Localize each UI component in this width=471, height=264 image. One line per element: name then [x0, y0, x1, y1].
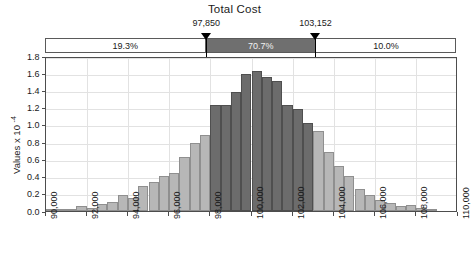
histogram-bar	[365, 195, 375, 211]
chart-title-text: Total Cost	[208, 3, 261, 15]
histogram-bar	[159, 176, 169, 210]
marker-value-left: 97,850	[192, 18, 220, 28]
y-tick-mark	[42, 91, 45, 92]
y-axis-label-exponent: -4	[10, 116, 17, 122]
chart-title: Total Cost	[0, 3, 469, 15]
x-tick-mark	[127, 212, 128, 216]
histogram-bar	[66, 209, 76, 211]
marker-value-right: 103,152	[299, 18, 332, 28]
y-tick-mark	[42, 177, 45, 178]
x-tick-label: 100,000	[255, 186, 265, 219]
x-tick-mark	[86, 212, 87, 216]
histogram-bar	[355, 189, 365, 211]
x-tick-mark	[374, 212, 375, 216]
y-axis-label: Values x 10 -4	[10, 116, 22, 174]
histogram-bar	[324, 152, 334, 211]
y-axis-label-text: Values x 10	[11, 122, 22, 174]
histogram-bar	[76, 206, 86, 210]
x-tick-mark	[209, 212, 210, 216]
x-tick-mark	[251, 212, 252, 216]
y-tick-label: 0.2	[0, 189, 40, 199]
histogram-bar	[396, 206, 406, 210]
histogram-bars	[46, 58, 456, 211]
y-tick-mark	[42, 74, 45, 75]
histogram-bar	[241, 74, 251, 210]
y-tick-mark	[42, 194, 45, 195]
x-tick-mark	[168, 212, 169, 216]
x-tick-label: 104,000	[337, 186, 347, 219]
histogram-bar	[200, 135, 210, 211]
x-tick-label: 90,000	[49, 191, 59, 219]
x-tick-label: 106,000	[378, 186, 388, 219]
right-band-label: 10.0%	[316, 39, 455, 54]
histogram-bar	[107, 202, 117, 211]
y-tick-label: 1.8	[0, 52, 40, 62]
histogram-bar	[149, 182, 159, 210]
y-tick-label: 1.6	[0, 69, 40, 79]
plot-area	[45, 57, 457, 212]
middle-band-label: 70.7%	[206, 39, 315, 54]
y-tick-label: 0.0	[0, 207, 40, 217]
histogram-bar	[272, 81, 282, 210]
y-tick-label: 1.2	[0, 103, 40, 113]
y-tick-mark	[42, 143, 45, 144]
left-band-label: 19.3%	[46, 39, 206, 54]
middle-band: 70.7%	[206, 38, 315, 53]
histogram-bar	[231, 92, 241, 211]
histogram-bar	[118, 195, 128, 211]
marker-handle-right[interactable]	[310, 33, 320, 40]
histogram-bar	[406, 205, 416, 210]
y-tick-mark	[42, 108, 45, 109]
y-tick-mark	[42, 160, 45, 161]
x-tick-mark	[457, 212, 458, 216]
y-tick-label: 1.4	[0, 86, 40, 96]
marker-handle-left[interactable]	[201, 33, 211, 40]
x-tick-label: 110,000	[461, 187, 471, 219]
x-tick-label: 102,000	[296, 186, 306, 219]
x-tick-label: 98,000	[213, 191, 223, 219]
x-tick-mark	[292, 212, 293, 216]
histogram-bar	[282, 105, 292, 210]
x-tick-label: 108,000	[419, 186, 429, 219]
x-tick-mark	[333, 212, 334, 216]
y-tick-mark	[42, 57, 45, 58]
x-tick-mark	[45, 212, 46, 216]
right-band: 10.0%	[315, 38, 456, 53]
x-tick-mark	[415, 212, 416, 216]
x-tick-label: 92,000	[90, 191, 100, 219]
left-band: 19.3%	[45, 38, 207, 53]
y-tick-mark	[42, 125, 45, 126]
histogram-bar	[190, 143, 200, 210]
x-tick-label: 94,000	[131, 191, 141, 219]
histogram-bar	[313, 131, 323, 210]
x-tick-label: 96,000	[172, 191, 182, 219]
